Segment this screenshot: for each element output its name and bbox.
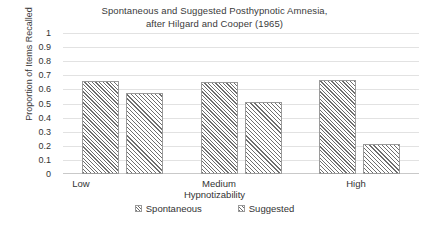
bar-suggested-medium xyxy=(245,102,282,174)
legend-entry-suggested: Suggested xyxy=(238,203,294,214)
chart-title: Spontaneous and Suggested Posthypnotic A… xyxy=(0,5,429,30)
gridline xyxy=(63,75,419,76)
bar-spontaneous-medium xyxy=(201,82,238,174)
gridline xyxy=(63,47,419,48)
y-tick-label: 0.3 xyxy=(0,128,51,137)
legend-entry-spontaneous: Spontaneous xyxy=(135,203,202,214)
gridline xyxy=(63,61,419,62)
y-tick-label: 0.8 xyxy=(0,57,51,66)
x-axis-title: Hypnotizability xyxy=(0,189,429,200)
y-tick-label: 0.9 xyxy=(0,43,51,52)
bar-spontaneous-low xyxy=(82,81,119,174)
bar-suggested-high xyxy=(363,144,400,174)
y-tick-label: 0.6 xyxy=(0,85,51,94)
chart-legend: Spontaneous Suggested xyxy=(0,203,429,214)
bar-chart: Spontaneous and Suggested Posthypnotic A… xyxy=(0,0,429,226)
y-tick-label: 0.7 xyxy=(0,71,51,80)
x-tick-label-low: Low xyxy=(21,178,141,189)
x-tick-label-medium: Medium xyxy=(159,178,279,189)
chart-title-line-1: Spontaneous and Suggested Posthypnotic A… xyxy=(0,5,429,18)
chart-title-line-2: after Hilgard and Cooper (1965) xyxy=(0,18,429,31)
plot-area: 10.90.80.70.60.50.40.30.20.10 xyxy=(63,33,419,174)
gridline xyxy=(63,33,419,34)
y-tick-label: 1 xyxy=(0,29,51,38)
legend-swatch-spontaneous xyxy=(135,205,142,212)
y-tick-label: 0.2 xyxy=(0,142,51,151)
legend-label-spontaneous: Spontaneous xyxy=(146,203,202,214)
x-tick-label-high: High xyxy=(296,178,416,189)
y-tick-label: 0.1 xyxy=(0,156,51,165)
legend-label-suggested: Suggested xyxy=(249,203,294,214)
bar-spontaneous-high xyxy=(319,80,356,174)
y-tick-label: 0.4 xyxy=(0,114,51,123)
legend-swatch-suggested xyxy=(238,205,245,212)
bar-suggested-low xyxy=(126,93,163,174)
y-tick-label: 0.5 xyxy=(0,100,51,109)
